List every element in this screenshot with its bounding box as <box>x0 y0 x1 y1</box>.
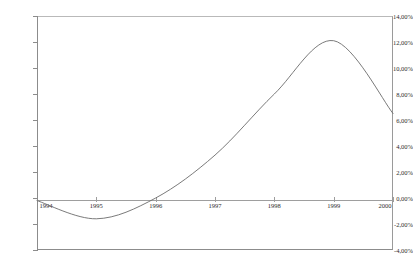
series-path <box>37 41 393 219</box>
line-chart: 14,00%12,00%10,00%8,00%6,00%4,00%2,00%0,… <box>0 0 413 264</box>
series-line <box>0 0 413 264</box>
